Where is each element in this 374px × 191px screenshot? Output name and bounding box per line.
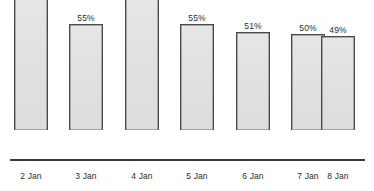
bar-value-label: 51% — [236, 21, 270, 31]
x-axis-tick-label: 3 Jan — [60, 171, 112, 181]
bar-rect[interactable] — [125, 0, 159, 130]
bar-value-label: 50% — [291, 23, 325, 33]
bar-chart: 69% 55% 70% 55% 51% 50% 49 — [0, 0, 374, 191]
bar-value-label: 49% — [321, 25, 355, 35]
bar-rect[interactable] — [321, 36, 355, 130]
x-axis-tick-label: 8 Jan — [312, 171, 364, 181]
bar-value-label: 55% — [69, 13, 103, 23]
bar-value-label: 55% — [180, 13, 214, 23]
x-axis-tick-label: 5 Jan — [171, 171, 223, 181]
x-axis-tick-label: 6 Jan — [227, 171, 279, 181]
bar-rect[interactable] — [236, 32, 270, 130]
x-axis-line — [10, 159, 365, 161]
x-axis-tick-label: 4 Jan — [116, 171, 168, 181]
plot-area: 69% 55% 70% 55% 51% 50% 49 — [0, 0, 374, 161]
x-axis-tick-label: 2 Jan — [5, 171, 57, 181]
bar-rect[interactable] — [180, 24, 214, 130]
bar-rect[interactable] — [69, 24, 103, 130]
bar-rect[interactable] — [291, 34, 325, 130]
bar-rect[interactable] — [14, 0, 48, 130]
